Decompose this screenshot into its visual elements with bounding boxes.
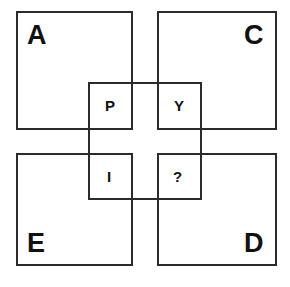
label-e: E <box>27 230 45 257</box>
puzzle-canvas: A C E D P Y I ? <box>0 0 290 287</box>
label-a: A <box>27 22 47 49</box>
label-y: Y <box>174 98 184 113</box>
label-question: ? <box>173 169 182 184</box>
label-p: P <box>105 98 115 113</box>
label-d: D <box>244 230 264 257</box>
label-c: C <box>244 22 264 49</box>
label-i: I <box>107 169 111 184</box>
